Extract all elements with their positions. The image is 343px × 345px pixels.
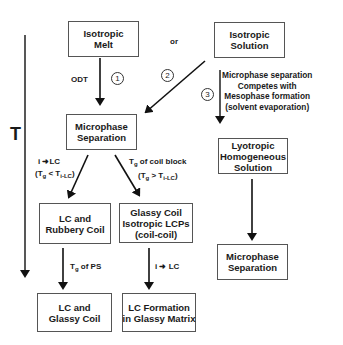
- label-text: < T: [46, 169, 60, 178]
- label-text: i: [155, 262, 157, 271]
- box-line: Glassy Coil: [49, 313, 101, 324]
- box-line: Isotropic: [229, 29, 269, 40]
- temperature-axis-label: T: [10, 124, 21, 145]
- route-2-marker: 2: [161, 69, 174, 82]
- box-lc-formation: LC Formation in Glassy Matrix: [122, 293, 196, 332]
- tg-of-ps-label: Tg of PS: [70, 262, 101, 274]
- box-microphase-separation-right: Microphase Separation: [217, 244, 288, 280]
- label-text: ): [72, 169, 75, 178]
- label-sub: i-LC: [163, 175, 175, 181]
- box-lc-glassy-coil: LC and Glassy Coil: [37, 293, 112, 332]
- box-line: Lyotropic: [232, 140, 275, 151]
- or-label: or: [170, 37, 178, 47]
- label-text: of coil block: [138, 157, 187, 166]
- tg-less-than-label: (Tg < Ti-LC): [35, 169, 75, 181]
- box-line: Rubbery Coil: [45, 224, 104, 235]
- label-text: > T: [149, 171, 163, 180]
- box-line: Melt: [94, 39, 113, 50]
- route-3-line: (solvent evaporation): [222, 102, 312, 113]
- label-text: i: [38, 157, 40, 166]
- label-text: LC: [49, 157, 60, 166]
- route-1-marker: 1: [111, 72, 124, 85]
- box-line: Isotropic: [83, 28, 123, 39]
- label-text: (T: [138, 171, 146, 180]
- tg-greater-than-label: (Tg > Ti-LC): [138, 171, 178, 183]
- box-line: Solution: [234, 162, 272, 173]
- box-line: in Glassy Matrix: [123, 313, 196, 324]
- route-3-description: Microphase separation Competes with Meso…: [222, 70, 312, 112]
- label-text: of PS: [79, 262, 102, 271]
- box-line: (coil-coil): [135, 229, 177, 240]
- right-arrow-icon: ➜: [159, 262, 166, 271]
- box-line: Separation: [77, 132, 126, 143]
- route-3-line: Mesophase formation: [222, 91, 312, 102]
- box-line: LC and: [58, 302, 90, 313]
- arrow-route-2: [146, 61, 205, 112]
- box-isotropic-solution: Isotropic Solution: [214, 22, 285, 58]
- route-3-line: Microphase separation: [222, 70, 312, 81]
- box-line: Microphase: [75, 121, 128, 132]
- label-text: LC: [169, 262, 180, 271]
- box-line: Separation: [228, 262, 277, 273]
- box-line: Isotropic LCPs: [122, 218, 189, 229]
- box-isotropic-melt: Isotropic Melt: [68, 21, 139, 57]
- label-text: (T: [35, 169, 43, 178]
- box-line: Microphase: [226, 251, 279, 262]
- box-line: Glassy Coil: [130, 207, 182, 218]
- box-glassy-coil: Glassy Coil Isotropic LCPs (coil-coil): [119, 203, 193, 243]
- route-3-line: Competes with: [222, 81, 312, 92]
- box-line: Homogeneous: [220, 151, 286, 162]
- i-to-lc-label-2: i ➜ LC: [155, 262, 179, 272]
- tg-coil-block-label: Tg of coil block: [129, 157, 186, 169]
- label-text: ): [175, 171, 178, 180]
- box-line: Solution: [231, 40, 269, 51]
- odt-label: ODT: [71, 75, 88, 85]
- box-lc-rubbery-coil: LC and Rubbery Coil: [39, 203, 111, 244]
- box-line: LC and: [59, 213, 91, 224]
- box-lyotropic-solution: Lyotropic Homogeneous Solution: [218, 138, 288, 174]
- i-to-lc-label: i ➜LC: [38, 157, 60, 167]
- box-line: LC Formation: [128, 302, 190, 313]
- box-microphase-separation: Microphase Separation: [66, 114, 137, 150]
- label-sub: i-LC: [60, 173, 72, 179]
- route-3-marker: 3: [201, 88, 214, 101]
